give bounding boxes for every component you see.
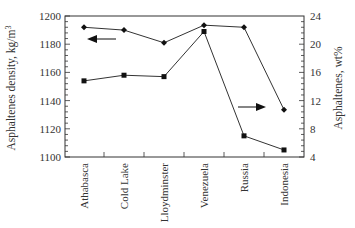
x-tick-label: Athabasca	[78, 163, 90, 209]
x-axis-ticks: AthabascaCold LakeLloydminsterVenezuelaR…	[78, 152, 290, 222]
right-tick-label: 4	[310, 151, 316, 163]
right-axis-ticks: 4812162024	[299, 10, 322, 163]
diamond-marker	[241, 24, 247, 30]
left-tick-label: 1200	[39, 10, 62, 22]
right-tick-label: 20	[310, 38, 322, 50]
left-arrow-head-icon	[87, 35, 97, 43]
left-tick-label: 1120	[39, 123, 61, 135]
square-marker	[122, 73, 127, 78]
axis-arrows	[87, 35, 266, 111]
x-tick-label: Lloydminster	[158, 163, 170, 223]
diamond-marker	[81, 24, 87, 30]
x-tick-label: Venezuela	[198, 163, 210, 208]
x-tick-label: Russia	[238, 163, 250, 192]
square-marker	[242, 133, 247, 138]
square-marker	[282, 147, 287, 152]
right-arrow-head-icon	[256, 103, 266, 111]
diamond-marker	[121, 27, 127, 33]
right-tick-label: 16	[310, 66, 322, 78]
right-tick-label: 12	[310, 95, 321, 107]
left-tick-label: 1160	[39, 66, 61, 78]
plot-frame	[65, 16, 304, 157]
right-axis-label: Asphaltenes, wt%	[332, 46, 345, 129]
left-tick-label: 1100	[39, 151, 61, 163]
series-line	[84, 25, 284, 110]
plot-border	[65, 16, 304, 157]
diamond-marker	[281, 107, 287, 113]
x-tick-label: Indonesia	[278, 163, 290, 206]
left-tick-label: 1180	[39, 38, 61, 50]
right-tick-label: 8	[310, 123, 316, 135]
diamond-marker	[201, 22, 207, 28]
x-tick-label: Cold Lake	[118, 163, 130, 209]
series-line	[84, 32, 284, 150]
square-marker	[202, 29, 207, 34]
left-tick-label: 1140	[39, 95, 61, 107]
left-axis-label: Asphaltenes density, kg/m3	[4, 26, 19, 151]
square-marker	[82, 78, 87, 83]
data-series	[81, 22, 287, 152]
right-tick-label: 24	[310, 10, 322, 22]
diamond-marker	[161, 40, 167, 46]
chart-svg: 110011201140116011801200 4812162024 Atha…	[0, 0, 355, 228]
square-marker	[162, 74, 167, 79]
